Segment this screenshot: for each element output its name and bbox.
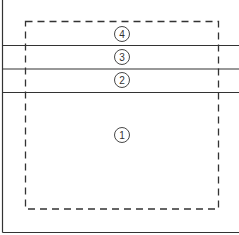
region-marker-1: 1 [115, 128, 130, 143]
region-marker-3: 3 [115, 50, 130, 65]
region-marker-4: 4 [115, 27, 130, 42]
layered-region-diagram: 4 3 2 1 [0, 0, 239, 235]
region-label-4: 4 [119, 29, 125, 40]
region-label-1: 1 [119, 130, 125, 141]
region-marker-2: 2 [115, 73, 130, 88]
region-label-3: 3 [119, 52, 125, 63]
region-label-2: 2 [119, 75, 125, 86]
